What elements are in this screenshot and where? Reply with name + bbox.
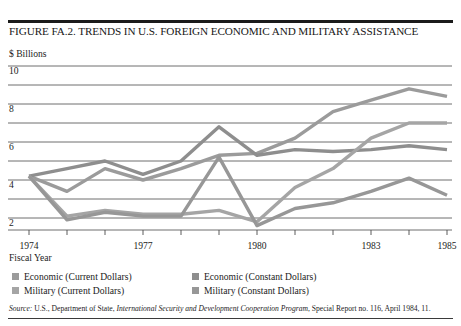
legend-swatch-icon: [192, 287, 199, 294]
y-axis-unit-label: $ Billions: [9, 48, 47, 59]
legend-item-military-constant: Military (Constant Dollars): [192, 285, 309, 296]
legend-swatch-icon: [192, 273, 199, 280]
legend-row-1: Economic (Current Dollars) Economic (Con…: [12, 269, 412, 283]
y-axis-tick-label: 8: [9, 103, 27, 114]
figure-title: FIGURE FA.2. TRENDS IN U.S. FOREIGN ECON…: [9, 25, 457, 37]
chart-legend: Economic (Current Dollars) Economic (Con…: [12, 269, 412, 297]
legend-label: Military (Current Dollars): [24, 285, 124, 296]
figure-container: FIGURE FA.2. TRENDS IN U.S. FOREIGN ECON…: [0, 0, 461, 326]
source-note: Source: U.S., Department of State, Inter…: [9, 304, 431, 313]
y-axis-tick-label: 4: [9, 179, 27, 190]
x-axis-tick-label: 1974: [9, 240, 49, 251]
legend-item-economic-current: Economic (Current Dollars): [12, 271, 192, 282]
y-axis-tick-label: 10: [9, 65, 27, 76]
legend-swatch-icon: [12, 273, 19, 280]
legend-item-economic-constant: Economic (Constant Dollars): [192, 271, 316, 282]
data-lines-group: [29, 89, 447, 226]
x-axis-tick-label: 1985: [427, 240, 461, 251]
legend-row-2: Military (Current Dollars) Military (Con…: [12, 283, 412, 297]
y-axis-tick-label: 6: [9, 141, 27, 152]
bottom-rule: [8, 318, 453, 319]
source-text-2: , Special Report no. 116, April 1984, 11…: [308, 304, 431, 313]
chart-svg: [8, 60, 453, 235]
top-rule: [8, 20, 453, 23]
x-axis-title: Fiscal Year: [9, 252, 52, 263]
plot-area: [8, 60, 453, 235]
source-title-italic: International Security and Development C…: [117, 304, 308, 313]
x-axis-tick-label: 1977: [123, 240, 163, 251]
source-prefix: Source:: [9, 304, 32, 313]
source-text-1: U.S., Department of State,: [32, 304, 116, 313]
y-axis-tick-label: 2: [9, 217, 27, 228]
x-tickmarks-group: [29, 230, 447, 235]
x-axis-tick-label: 1980: [237, 240, 277, 251]
legend-label: Economic (Current Dollars): [24, 271, 132, 282]
legend-label: Military (Constant Dollars): [204, 285, 309, 296]
data-line: [29, 123, 447, 222]
legend-item-military-current: Military (Current Dollars): [12, 285, 192, 296]
legend-label: Economic (Constant Dollars): [204, 271, 316, 282]
x-axis-tick-label: 1983: [351, 240, 391, 251]
legend-swatch-icon: [12, 287, 19, 294]
